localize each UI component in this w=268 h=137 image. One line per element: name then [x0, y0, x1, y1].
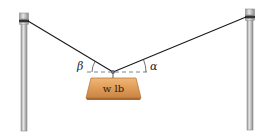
- cable-tension-diagram: β α w lb: [0, 0, 268, 137]
- left-pole: [19, 13, 29, 131]
- right-cable: [113, 17, 246, 72]
- junction-hook: [111, 70, 114, 78]
- angle-beta-arc: [92, 62, 95, 72]
- angle-beta-label: β: [76, 60, 83, 73]
- left-cable: [28, 21, 113, 72]
- right-pole: [245, 9, 255, 130]
- weight-block: w lb: [86, 78, 141, 100]
- angle-alpha-label: α: [150, 60, 158, 73]
- angle-alpha-arc: [144, 60, 147, 72]
- weight-label: w lb: [103, 83, 124, 94]
